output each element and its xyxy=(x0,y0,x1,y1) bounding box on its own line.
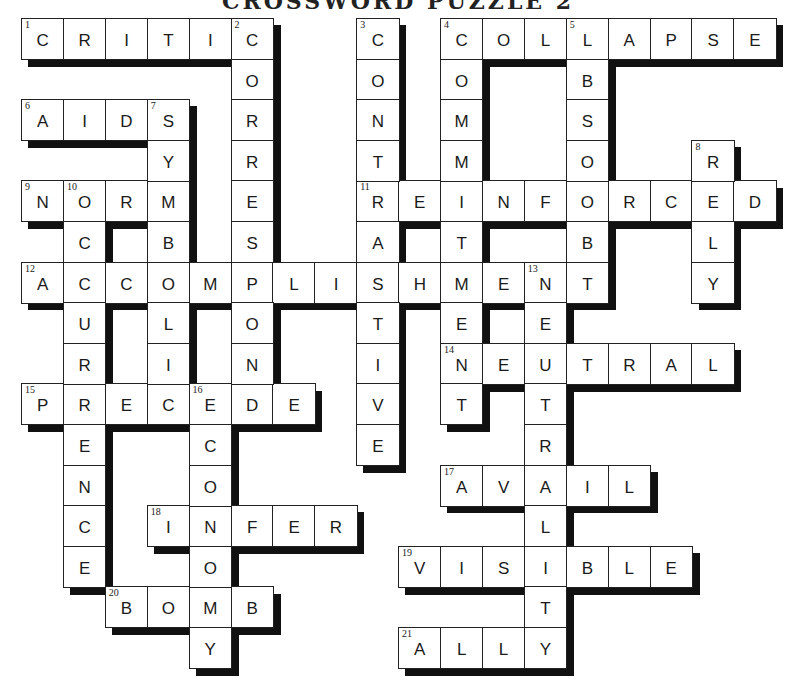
grid-cell[interactable]: L xyxy=(608,465,651,507)
grid-cell[interactable]: O xyxy=(231,59,274,101)
grid-cell[interactable]: 18I xyxy=(147,505,190,547)
grid-cell[interactable]: O xyxy=(440,59,483,101)
grid-cell[interactable]: A xyxy=(356,221,399,263)
grid-cell[interactable]: O xyxy=(482,18,525,60)
grid-cell[interactable]: I xyxy=(314,262,357,304)
grid-cell[interactable]: B xyxy=(147,221,190,263)
grid-cell[interactable]: N xyxy=(63,465,106,507)
grid-cell[interactable]: C xyxy=(63,262,106,304)
grid-cell[interactable]: 17A xyxy=(440,465,483,507)
grid-cell[interactable]: I xyxy=(440,180,483,222)
grid-cell[interactable]: I xyxy=(63,99,106,141)
grid-cell[interactable]: T xyxy=(356,302,399,344)
grid-cell[interactable]: T xyxy=(566,262,609,304)
grid-cell[interactable]: 19V xyxy=(398,546,441,588)
grid-cell[interactable]: I xyxy=(356,343,399,385)
grid-cell[interactable]: B xyxy=(566,221,609,263)
grid-cell[interactable]: L xyxy=(691,343,734,385)
grid-cell[interactable]: O xyxy=(147,262,190,304)
grid-cell[interactable]: I xyxy=(105,18,148,60)
grid-cell[interactable]: 5L xyxy=(566,18,609,60)
grid-cell[interactable]: D xyxy=(733,180,776,222)
grid-cell[interactable]: T xyxy=(524,586,567,628)
grid-cell[interactable]: M xyxy=(189,262,232,304)
grid-cell[interactable]: O xyxy=(356,59,399,101)
grid-cell[interactable]: 2C xyxy=(231,18,274,60)
grid-cell[interactable]: O xyxy=(231,302,274,344)
grid-cell[interactable]: M xyxy=(189,586,232,628)
grid-cell[interactable]: D xyxy=(231,383,274,425)
grid-cell[interactable]: 13N xyxy=(524,262,567,304)
grid-cell[interactable]: O xyxy=(189,465,232,507)
grid-cell[interactable]: M xyxy=(440,140,483,182)
grid-cell[interactable]: 20B xyxy=(105,586,148,628)
grid-cell[interactable]: M xyxy=(440,262,483,304)
grid-cell[interactable]: 9N xyxy=(21,180,64,222)
grid-cell[interactable]: N xyxy=(482,180,525,222)
grid-cell[interactable]: I xyxy=(524,546,567,588)
grid-cell[interactable]: 21A xyxy=(398,627,441,669)
grid-cell[interactable]: C xyxy=(147,383,190,425)
grid-cell[interactable]: Y xyxy=(147,140,190,182)
grid-cell[interactable]: E xyxy=(398,180,441,222)
grid-cell[interactable]: I xyxy=(566,465,609,507)
grid-cell[interactable]: E xyxy=(524,302,567,344)
grid-cell[interactable]: O xyxy=(189,546,232,588)
grid-cell[interactable]: R xyxy=(314,505,357,547)
grid-cell[interactable]: L xyxy=(524,505,567,547)
grid-cell[interactable]: 14N xyxy=(440,343,483,385)
grid-cell[interactable]: 16E xyxy=(189,383,232,425)
grid-cell[interactable]: L xyxy=(482,627,525,669)
grid-cell[interactable]: T xyxy=(524,383,567,425)
grid-cell[interactable]: Y xyxy=(524,627,567,669)
grid-cell[interactable]: P xyxy=(231,262,274,304)
grid-cell[interactable]: S xyxy=(356,262,399,304)
grid-cell[interactable]: E xyxy=(272,505,315,547)
grid-cell[interactable]: T xyxy=(566,343,609,385)
grid-cell[interactable]: E xyxy=(650,546,693,588)
grid-cell[interactable]: O xyxy=(147,586,190,628)
grid-cell[interactable]: E xyxy=(63,546,106,588)
grid-cell[interactable]: D xyxy=(105,99,148,141)
grid-cell[interactable]: C xyxy=(650,180,693,222)
grid-cell[interactable]: O xyxy=(566,180,609,222)
grid-cell[interactable]: C xyxy=(63,221,106,263)
grid-cell[interactable]: L xyxy=(524,18,567,60)
grid-cell[interactable]: E xyxy=(272,383,315,425)
grid-cell[interactable]: R xyxy=(231,99,274,141)
grid-cell[interactable]: V xyxy=(482,465,525,507)
grid-cell[interactable]: 11R xyxy=(356,180,399,222)
grid-cell[interactable]: I xyxy=(440,546,483,588)
grid-cell[interactable]: R xyxy=(63,383,106,425)
grid-cell[interactable]: R xyxy=(608,343,651,385)
grid-cell[interactable]: E xyxy=(63,424,106,466)
grid-cell[interactable]: S xyxy=(231,221,274,263)
grid-cell[interactable]: M xyxy=(440,99,483,141)
grid-cell[interactable]: L xyxy=(691,221,734,263)
grid-cell[interactable]: F xyxy=(231,505,274,547)
grid-cell[interactable]: 7S xyxy=(147,99,190,141)
grid-cell[interactable]: E xyxy=(691,180,734,222)
grid-cell[interactable]: L xyxy=(440,627,483,669)
grid-cell[interactable]: R xyxy=(105,180,148,222)
grid-cell[interactable]: 15P xyxy=(21,383,64,425)
grid-cell[interactable]: P xyxy=(650,18,693,60)
grid-cell[interactable]: R xyxy=(63,343,106,385)
grid-cell[interactable]: I xyxy=(189,18,232,60)
grid-cell[interactable]: R xyxy=(524,424,567,466)
grid-cell[interactable]: C xyxy=(189,424,232,466)
grid-cell[interactable]: 6A xyxy=(21,99,64,141)
grid-cell[interactable]: I xyxy=(147,343,190,385)
grid-cell[interactable]: A xyxy=(650,343,693,385)
grid-cell[interactable]: L xyxy=(147,302,190,344)
grid-cell[interactable]: B xyxy=(566,59,609,101)
grid-cell[interactable]: E xyxy=(440,302,483,344)
grid-cell[interactable]: E xyxy=(482,262,525,304)
grid-cell[interactable]: B xyxy=(231,586,274,628)
grid-cell[interactable]: 1C xyxy=(21,18,64,60)
grid-cell[interactable]: C xyxy=(63,505,106,547)
grid-cell[interactable]: E xyxy=(356,424,399,466)
grid-cell[interactable]: L xyxy=(272,262,315,304)
grid-cell[interactable]: 3C xyxy=(356,18,399,60)
grid-cell[interactable]: F xyxy=(524,180,567,222)
